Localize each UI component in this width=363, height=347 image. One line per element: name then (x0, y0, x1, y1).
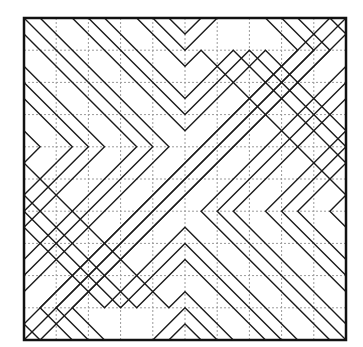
chevron-lines (24, 18, 346, 340)
chevron-pattern-figure (0, 0, 363, 347)
